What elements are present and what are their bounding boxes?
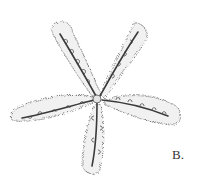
starfish-drawing <box>0 0 197 181</box>
arm-left <box>10 94 92 120</box>
arm-top-right <box>100 22 146 98</box>
figure-label: B. <box>172 147 184 163</box>
starfish-figure: B. <box>0 0 197 181</box>
arm-right <box>104 95 180 124</box>
central-disk <box>93 95 101 103</box>
